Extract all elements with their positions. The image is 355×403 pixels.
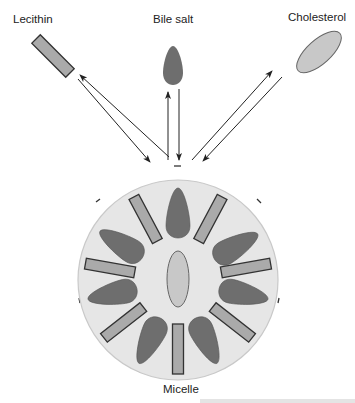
micelle-diagram: [0, 0, 355, 403]
micelle: [78, 180, 278, 380]
lecithin-molecule: [32, 35, 74, 77]
lecithin-arrows: [78, 75, 169, 162]
cholesterol-arrows: [192, 71, 282, 161]
bile-salt-molecule: [163, 46, 183, 85]
footer-divider: [200, 399, 355, 403]
bile-salt-arrows: [168, 89, 179, 160]
cholesterol-molecule: [290, 24, 348, 79]
